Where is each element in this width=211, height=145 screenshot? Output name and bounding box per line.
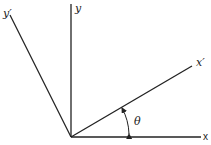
theta-label: θ <box>134 115 141 128</box>
x-prime-axis <box>71 66 192 137</box>
x-prime-axis-label: x′ <box>196 56 205 69</box>
theta-angle-arc <box>122 108 129 134</box>
rotated-axes-diagram: y y′ x′ x θ <box>0 0 211 145</box>
y-prime-axis <box>10 15 71 137</box>
x-axis-label: x <box>203 131 208 142</box>
y-axis-label: y <box>74 2 82 15</box>
y-prime-axis-label: y′ <box>2 7 12 20</box>
